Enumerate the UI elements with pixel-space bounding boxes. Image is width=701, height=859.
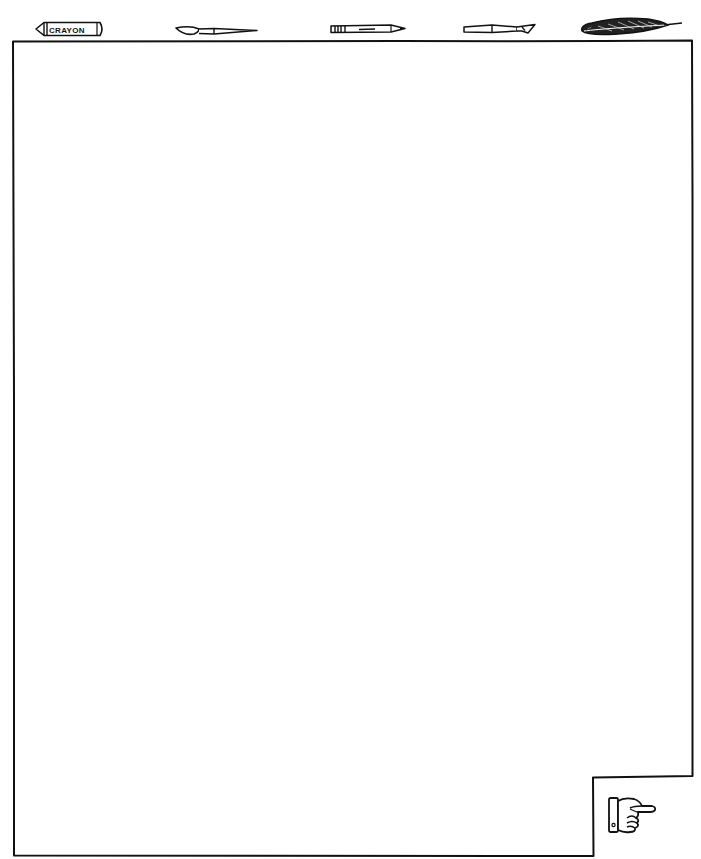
paintbrush-icon: [174, 24, 260, 38]
next-page-button[interactable]: Next page: [606, 792, 658, 840]
tool-quill[interactable]: Feather quill: [578, 14, 684, 38]
crayon-icon: CRAYON: [34, 20, 106, 38]
tool-knife[interactable]: Craft knife: [462, 22, 538, 36]
craft-knife-icon: [462, 22, 538, 36]
tool-pencil[interactable]: Pencil: [329, 22, 409, 36]
tool-crayon[interactable]: Crayon CRAYON: [34, 20, 106, 38]
pencil-icon: [329, 22, 409, 36]
quill-pen-icon: [578, 14, 684, 38]
tool-paintbrush[interactable]: Paintbrush: [174, 24, 260, 38]
drawing-canvas-label: Drawing canvas: [14, 43, 15, 44]
crayon-brand-text: CRAYON: [49, 26, 85, 35]
pointing-hand-icon: [606, 792, 658, 840]
tool-toolbar: Crayon CRAYON Paintbrush Pencil: [0, 0, 701, 42]
drawing-canvas[interactable]: Drawing canvas: [14, 43, 691, 854]
